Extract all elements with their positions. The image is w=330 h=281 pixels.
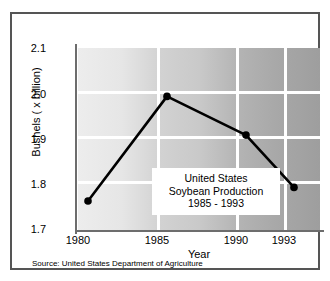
source-note: Source: United States Department of Agri…: [32, 259, 203, 268]
y-axis-title: Bushels ( x billion): [30, 52, 42, 172]
x-tick-label-1980: 1980: [56, 234, 100, 246]
x-tick-label-1985: 1985: [135, 234, 179, 246]
x-tick-label-1993: 1993: [262, 234, 306, 246]
x-axis-line: [75, 230, 324, 232]
y-tick-label-1.8: 1.8: [6, 179, 46, 190]
x-tick-label-1990: 1990: [214, 234, 258, 246]
title-line-3: 1985 - 1993: [154, 197, 278, 210]
y-tick-label-1.7: 1.7: [6, 224, 46, 235]
title-line-1: United States: [154, 172, 278, 185]
chart-frame-border: 2.1 2.0 1.9 1.8 1.7 1980 1985 1990 1993 …: [10, 12, 320, 270]
chart-figure: 2.1 2.0 1.9 1.8 1.7 1980 1985 1990 1993 …: [0, 0, 330, 281]
chart-title-box: United States Soybean Production 1985 - …: [152, 168, 280, 215]
gridline-x-1993: [284, 48, 287, 230]
title-line-2: Soybean Production: [154, 185, 278, 198]
y-axis-line: [75, 44, 77, 234]
